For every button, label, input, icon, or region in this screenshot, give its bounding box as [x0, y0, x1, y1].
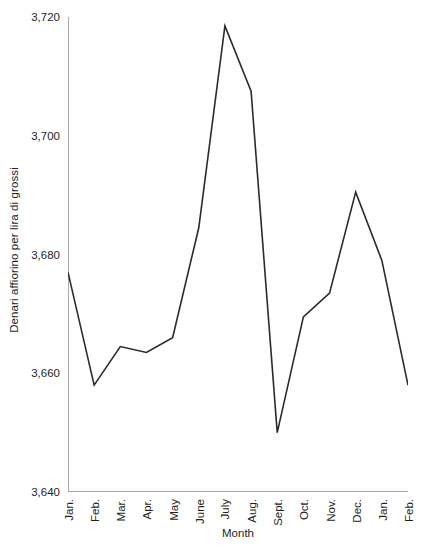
x-axis-tick-label-text: Jan. — [63, 499, 75, 521]
y-axis-tick-labels: 3,6403,6603,6803,7003,720 — [8, 0, 60, 551]
x-axis-tick-label-text: Mar. — [115, 499, 127, 521]
x-axis-tick-label-text: June — [194, 499, 206, 524]
x-axis-tick-label-text: Jan. — [377, 499, 389, 521]
x-axis-tick-label-text: Aug. — [246, 499, 258, 523]
x-axis-tick-label-text: Dec. — [351, 499, 363, 523]
x-axis-tick-label-text: July — [220, 499, 232, 519]
axis-lines — [68, 17, 408, 492]
x-axis-tick-labels: Jan.Feb.Mar.Apr.MayJuneJulyAug.Sept.Oct.… — [0, 497, 427, 551]
data-series-line — [68, 26, 408, 433]
y-axis-tick-label: 3,720 — [8, 11, 60, 23]
x-axis-tick-label-text: Nov. — [325, 499, 337, 522]
line-chart-figure: Denari affiorino per lira di grossi 3,64… — [0, 0, 427, 551]
x-axis-title: Month — [68, 527, 408, 539]
x-axis-tick-label-text: Oct. — [298, 499, 310, 520]
y-axis-tick-label: 3,680 — [8, 249, 60, 261]
plot-area — [68, 17, 408, 492]
x-axis-tick-label-text: Feb. — [403, 499, 415, 522]
x-axis-tick-label-text: Feb. — [89, 499, 101, 522]
y-axis-tick-label: 3,700 — [8, 130, 60, 142]
y-axis-tick-label: 3,660 — [8, 367, 60, 379]
x-axis-tick-label-text: May — [168, 499, 180, 521]
x-axis-tick-label-text: Apr. — [141, 499, 153, 519]
chart-svg — [68, 17, 408, 492]
axis-tick-marks — [68, 18, 408, 493]
x-axis-tick-label-text: Sept. — [272, 499, 284, 526]
